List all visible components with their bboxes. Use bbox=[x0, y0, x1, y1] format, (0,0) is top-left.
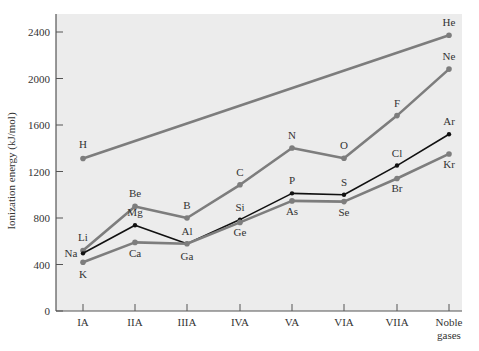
point-label: Ga bbox=[181, 250, 194, 262]
data-point bbox=[237, 182, 243, 188]
data-point bbox=[446, 66, 452, 72]
x-tick-label: gases bbox=[437, 329, 461, 341]
point-label: K bbox=[79, 268, 87, 280]
y-tick-label: 2400 bbox=[28, 26, 51, 38]
x-tick-label: IA bbox=[77, 316, 89, 328]
point-label: Ca bbox=[129, 247, 141, 259]
point-label: Ge bbox=[234, 226, 247, 238]
point-label: H bbox=[79, 138, 87, 150]
point-label: Se bbox=[339, 206, 350, 218]
point-label: N bbox=[288, 129, 296, 141]
point-label: As bbox=[286, 205, 298, 217]
data-point bbox=[80, 156, 86, 162]
data-point bbox=[341, 155, 347, 161]
data-point bbox=[447, 132, 451, 136]
y-tick-label: 1600 bbox=[28, 119, 51, 131]
data-point bbox=[132, 240, 138, 246]
point-label: He bbox=[443, 16, 456, 28]
point-label: Ne bbox=[443, 50, 456, 62]
point-label: Br bbox=[392, 182, 403, 194]
x-tick-label: VIIA bbox=[385, 316, 408, 328]
y-tick-label: 800 bbox=[34, 212, 51, 224]
y-tick-label: 0 bbox=[45, 305, 51, 317]
point-label: Kr bbox=[443, 158, 455, 170]
data-point bbox=[81, 251, 85, 255]
data-point bbox=[446, 32, 452, 38]
point-label: Si bbox=[235, 201, 244, 213]
point-label: B bbox=[183, 199, 190, 211]
y-tick-label: 1200 bbox=[28, 166, 51, 178]
data-point bbox=[184, 215, 190, 221]
point-label: Cl bbox=[392, 147, 402, 159]
point-label: S bbox=[341, 176, 347, 188]
data-point bbox=[184, 241, 190, 247]
x-tick-label: VIA bbox=[334, 316, 354, 328]
data-point bbox=[446, 151, 452, 157]
point-label: O bbox=[340, 139, 348, 151]
data-point bbox=[80, 259, 86, 265]
ionization-energy-chart: 04008001200160020002400IAIIAIIIAIVAVAVIA… bbox=[0, 0, 479, 351]
point-label: Mg bbox=[127, 206, 143, 218]
y-axis-title: Ionization energy (kJ/mol) bbox=[5, 112, 18, 229]
y-tick-label: 2000 bbox=[28, 73, 51, 85]
data-point bbox=[289, 145, 295, 151]
point-label: F bbox=[394, 97, 400, 109]
data-point bbox=[341, 199, 347, 205]
point-label: Be bbox=[129, 187, 141, 199]
data-point bbox=[290, 191, 294, 195]
x-tick-label: IVA bbox=[231, 316, 249, 328]
data-point bbox=[394, 176, 400, 182]
x-tick-label: Noble bbox=[436, 316, 463, 328]
data-point bbox=[342, 193, 346, 197]
x-tick-label: VA bbox=[285, 316, 300, 328]
x-tick-label: IIIA bbox=[178, 316, 197, 328]
point-label: Al bbox=[182, 225, 193, 237]
point-label: C bbox=[236, 166, 243, 178]
x-tick-label: IIA bbox=[127, 316, 142, 328]
data-point bbox=[237, 220, 243, 226]
data-point bbox=[289, 198, 295, 204]
data-point bbox=[395, 163, 399, 167]
point-label: P bbox=[289, 174, 295, 186]
data-point bbox=[133, 223, 137, 227]
y-tick-label: 400 bbox=[34, 259, 51, 271]
point-label: Na bbox=[65, 247, 78, 259]
data-point bbox=[394, 113, 400, 119]
point-label: Li bbox=[78, 231, 88, 243]
point-label: Ar bbox=[443, 115, 455, 127]
